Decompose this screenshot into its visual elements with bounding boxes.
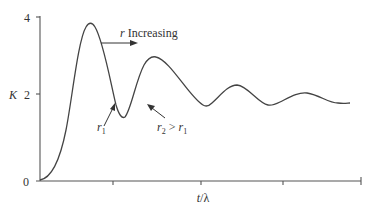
x-axis-label-rest: /λ bbox=[200, 191, 209, 205]
k-curve bbox=[40, 23, 350, 180]
chart-canvas: 4 2 0 K t/λ r Increasing r1 r2 > r1 bbox=[0, 0, 377, 218]
r-increasing-label: r Increasing bbox=[120, 26, 178, 40]
r1-label: r1 bbox=[97, 120, 106, 136]
r2-arrow bbox=[152, 108, 165, 118]
y-tick-label-0: 0 bbox=[23, 175, 29, 189]
r1-arrowhead bbox=[110, 103, 115, 111]
y-axis-label: K bbox=[8, 88, 18, 102]
y-tick-label-4: 4 bbox=[24, 11, 30, 25]
y-tick-label-2: 2 bbox=[24, 88, 30, 102]
r1-arrow bbox=[104, 108, 113, 126]
r2-gt-r1-label: r2 > r1 bbox=[157, 120, 187, 136]
x-axis-label: t/λ bbox=[197, 191, 210, 205]
r-increasing-arrowhead bbox=[130, 40, 138, 46]
